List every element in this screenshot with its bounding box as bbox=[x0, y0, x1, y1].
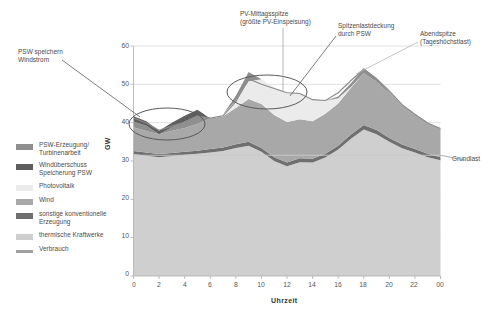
chart-plot bbox=[0, 0, 492, 315]
chart-root: PSW-Erzeugung/Turbinenarbeit Windübersch… bbox=[0, 0, 492, 315]
